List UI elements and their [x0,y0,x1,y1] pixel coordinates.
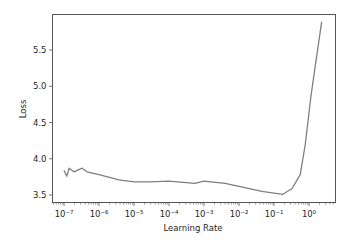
y-tick-label: 3.5 [33,190,47,200]
x-axis: 10⁻⁷10⁻⁶10⁻⁵10⁻⁴10⁻³10⁻²10⁻¹10⁰ [53,203,333,219]
lr-finder-chart: 10⁻⁷10⁻⁶10⁻⁵10⁻⁴10⁻³10⁻²10⁻¹10⁰ 3.54.04.… [0,0,352,246]
y-tick-label: 5.5 [33,45,47,55]
x-axis-label: Learning Rate [163,223,222,233]
x-tick-label: 10⁻⁶ [90,209,109,219]
y-axis: 3.54.04.55.05.5 [33,45,53,200]
x-tick-label: 10⁻⁵ [125,209,144,219]
x-tick-label: 10⁰ [302,209,317,219]
y-axis-label: Loss [18,99,28,118]
x-tick-label: 10⁻¹ [265,209,284,219]
x-tick-label: 10⁻⁷ [55,209,74,219]
loss-line [64,22,322,195]
y-tick-label: 4.0 [33,154,47,164]
x-tick-label: 10⁻³ [195,209,214,219]
y-tick-label: 5.0 [33,81,47,91]
plot-area [64,22,322,195]
x-tick-label: 10⁻⁴ [160,209,179,219]
y-tick-label: 4.5 [33,118,47,128]
x-tick-label: 10⁻² [230,209,249,219]
